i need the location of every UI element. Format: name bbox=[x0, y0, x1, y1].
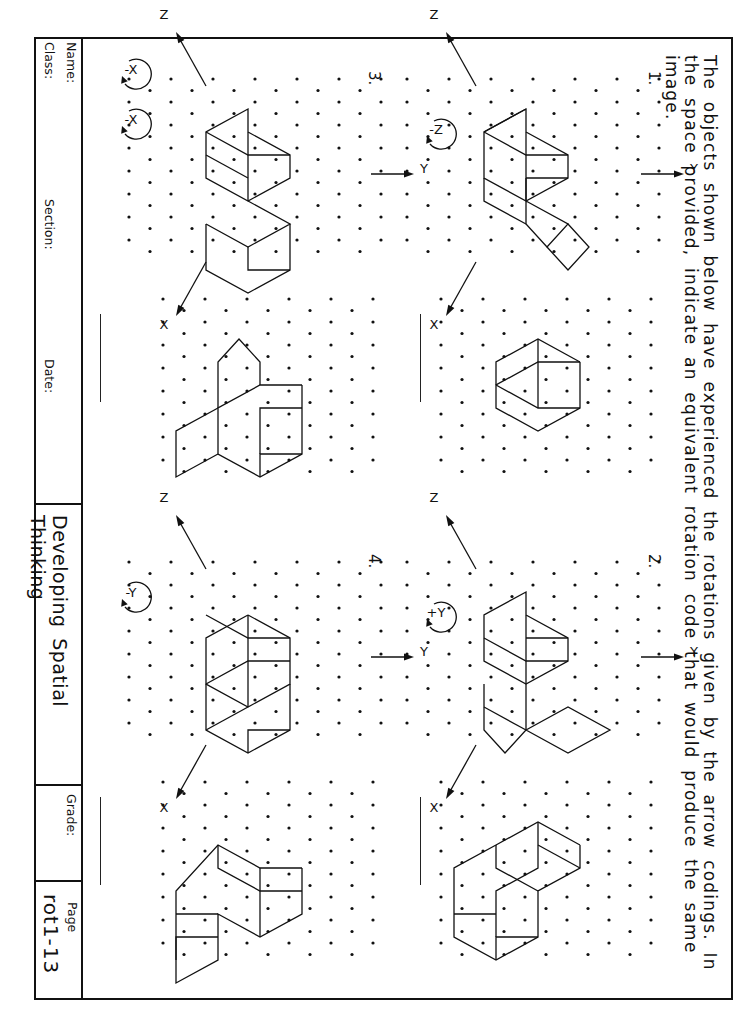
course-title: Developing Spatial Thinking bbox=[27, 515, 71, 784]
svg-text:Y: Y bbox=[689, 644, 698, 659]
svg-text:-Z: -Z bbox=[429, 122, 443, 137]
answer-line[interactable] bbox=[420, 797, 421, 885]
answer-line[interactable] bbox=[100, 797, 101, 885]
svg-text:Z: Z bbox=[160, 7, 169, 22]
svg-text:Z: Z bbox=[160, 490, 169, 505]
svg-text:-X: -X bbox=[125, 62, 138, 77]
svg-text:Z: Z bbox=[430, 490, 439, 505]
grade-cell: Grade: bbox=[36, 786, 81, 882]
class-label: Class: bbox=[42, 42, 57, 79]
svg-text:-X: -X bbox=[125, 112, 138, 127]
problem-4-figure: YZX-Y bbox=[81, 522, 401, 1002]
student-info-cell: Name: Class: Section: Date: bbox=[36, 39, 81, 505]
svg-text:X: X bbox=[430, 317, 439, 332]
section-label: Section: bbox=[42, 199, 57, 250]
page-label: Page bbox=[65, 902, 80, 932]
svg-text:Y: Y bbox=[419, 161, 428, 176]
problem-1: 1. YZX-Z bbox=[401, 39, 731, 519]
svg-text:Y: Y bbox=[419, 644, 428, 659]
problem-4: 4. YZX-Y bbox=[81, 522, 401, 1002]
svg-text:-Y: -Y bbox=[125, 585, 136, 600]
answer-line[interactable] bbox=[100, 314, 101, 402]
problem-3: 3. YZX-X-X bbox=[81, 39, 401, 519]
problem-2: 2. YZX+Y bbox=[401, 522, 731, 1002]
course-title-cell: Developing Spatial Thinking bbox=[36, 505, 81, 786]
svg-text:Y: Y bbox=[689, 161, 698, 176]
name-label: Name: bbox=[64, 42, 79, 83]
svg-text:Z: Z bbox=[430, 7, 439, 22]
worksheet: The objects shown below have experienced… bbox=[34, 37, 733, 1000]
svg-text:+Y: +Y bbox=[427, 605, 446, 620]
date-label: Date: bbox=[42, 359, 57, 393]
grade-label: Grade: bbox=[64, 794, 79, 836]
page-id: rot1-13 bbox=[39, 894, 63, 974]
svg-text:X: X bbox=[430, 800, 439, 815]
svg-text:X: X bbox=[160, 800, 169, 815]
answer-line[interactable] bbox=[420, 314, 421, 402]
problem-1-figure: YZX-Z bbox=[401, 39, 731, 519]
title-block: Name: Class: Section: Date: Developing S… bbox=[34, 37, 83, 1000]
page-cell: Page rot1-13 bbox=[36, 882, 81, 998]
problem-2-figure: YZX+Y bbox=[401, 522, 731, 1002]
svg-text:X: X bbox=[160, 317, 169, 332]
problem-3-figure: YZX-X-X bbox=[81, 39, 401, 519]
